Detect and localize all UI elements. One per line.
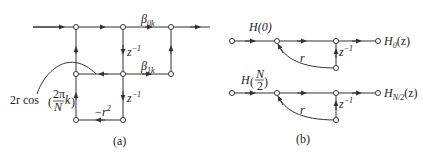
branch1-output-label: HN/2(z) — [383, 86, 418, 102]
node — [169, 25, 174, 30]
node — [275, 39, 280, 44]
paren-right: ) — [71, 95, 75, 109]
node — [334, 91, 339, 96]
paren-left: ( — [250, 75, 254, 89]
paren-left: ( — [48, 95, 52, 109]
node — [230, 39, 235, 44]
branch0-delay-label: z−1 — [338, 44, 353, 59]
coef-numerator: 2π — [53, 87, 65, 101]
node — [334, 118, 339, 123]
caption-b: (b) — [296, 132, 310, 146]
node — [334, 66, 339, 71]
node — [121, 25, 126, 30]
coefficient-label: 2r cos ( 2π N k ) — [10, 87, 75, 114]
branch1-delay-label: z−1 — [338, 96, 353, 111]
branch0-feedback-label: r — [300, 51, 305, 65]
branch0-gain-label: H(0) — [248, 20, 272, 34]
paren-right: ) — [264, 75, 268, 89]
beta0-label: β0k — [140, 12, 155, 28]
caption-a: (a) — [113, 134, 126, 148]
node — [74, 72, 79, 77]
branch1-feedback-label: r — [300, 103, 305, 117]
coefficient-pointer-curve — [37, 62, 96, 94]
coef-denominator: N — [53, 100, 63, 114]
coef-prefix: 2r cos — [10, 93, 39, 107]
node — [230, 91, 235, 96]
node — [169, 72, 174, 77]
delay-label-1: z−1 — [126, 44, 141, 59]
branch1-feedback-curve — [278, 96, 336, 120]
signal-flow-diagram: β0k β1k z−1 z−1 −r2 2r cos ( 2π N k ) (a… — [0, 0, 423, 158]
node — [376, 39, 381, 44]
neg-r-squared-label: −r2 — [94, 104, 111, 119]
node — [376, 91, 381, 96]
beta1-label: β1k — [140, 59, 155, 75]
node — [74, 118, 79, 123]
branch0-feedback-curve — [278, 44, 336, 68]
node — [275, 91, 280, 96]
gain-denominator: 2 — [257, 79, 263, 93]
node — [74, 25, 79, 30]
node — [334, 39, 339, 44]
node — [121, 118, 126, 123]
branch0-output-label: H0(z) — [383, 34, 410, 50]
delay-label-2: z−1 — [126, 90, 141, 105]
node — [121, 72, 126, 77]
branch1-gain-label: H ( N 2 ) — [240, 67, 268, 93]
